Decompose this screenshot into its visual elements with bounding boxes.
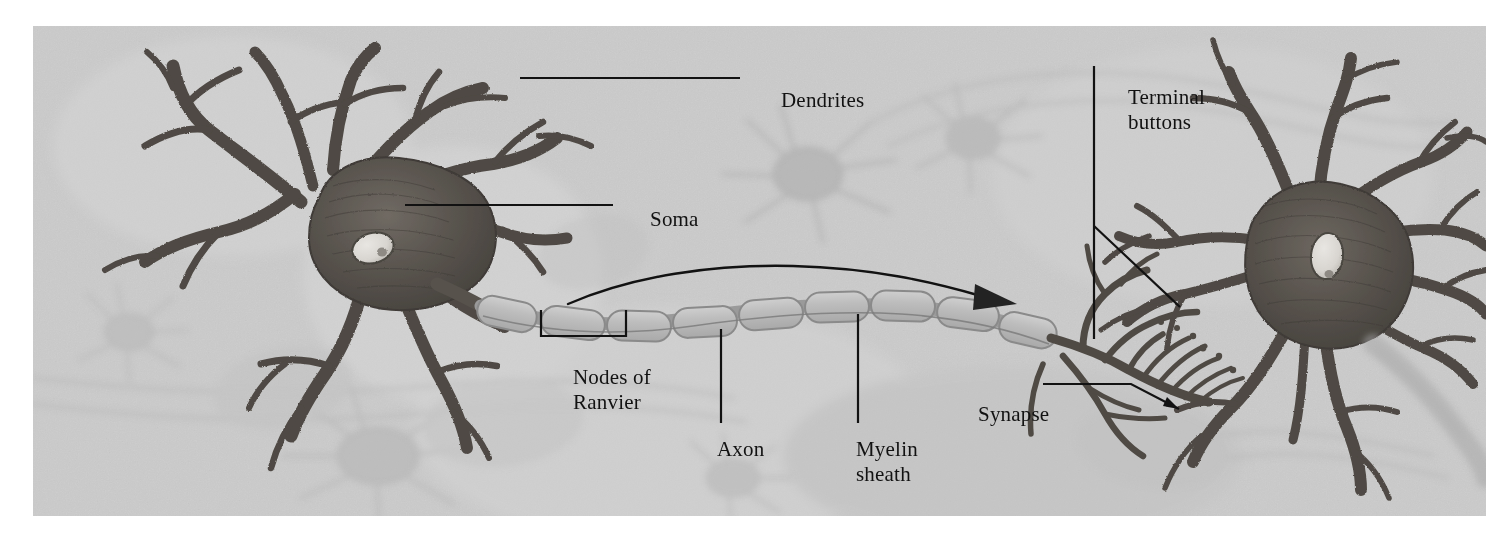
label-nodes-of-ranvier: Nodes ofRanvier bbox=[573, 365, 651, 415]
left-nucleolus bbox=[377, 248, 387, 257]
label-axon: Axon bbox=[717, 437, 764, 462]
label-nodes-of-ranvier-line2: Ranvier bbox=[573, 390, 641, 414]
label-myelin-sheath-line1: Myelin bbox=[856, 437, 918, 461]
label-myelin-sheath-line2: sheath bbox=[856, 462, 911, 486]
label-terminal-buttons-line2: buttons bbox=[1128, 110, 1191, 134]
label-terminal-buttons-line1: Terminal bbox=[1128, 85, 1205, 109]
label-synapse: Synapse bbox=[978, 402, 1049, 427]
label-myelin-sheath: Myelinsheath bbox=[856, 437, 918, 487]
label-nodes-of-ranvier-line1: Nodes of bbox=[573, 365, 651, 389]
label-dendrites: Dendrites bbox=[781, 88, 864, 113]
label-soma: Soma bbox=[650, 207, 699, 232]
diagram-plate: Dendrites Soma Terminalbuttons Nodes ofR… bbox=[33, 26, 1486, 516]
right-nucleolus bbox=[1325, 270, 1334, 278]
label-terminal-buttons: Terminalbuttons bbox=[1128, 85, 1205, 135]
neuron-diagram-figure: Dendrites Soma Terminalbuttons Nodes ofR… bbox=[0, 0, 1512, 553]
